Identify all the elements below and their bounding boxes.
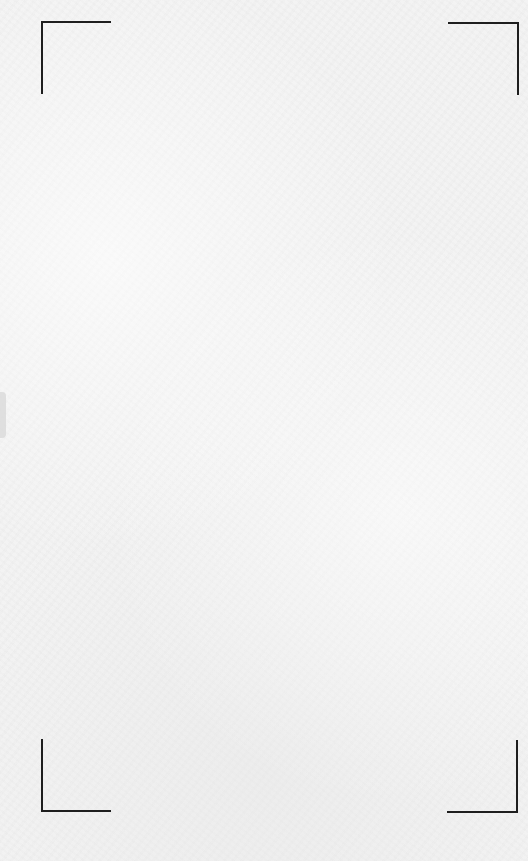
corner-bracket-top-left-icon bbox=[41, 21, 111, 94]
camera-viewfinder[interactable] bbox=[0, 0, 528, 861]
left-edge-swipe-handle[interactable] bbox=[0, 392, 6, 438]
corner-bracket-bottom-left-icon bbox=[41, 739, 111, 812]
corner-bracket-top-right-icon bbox=[448, 22, 519, 95]
corner-bracket-bottom-right-icon bbox=[447, 740, 518, 813]
